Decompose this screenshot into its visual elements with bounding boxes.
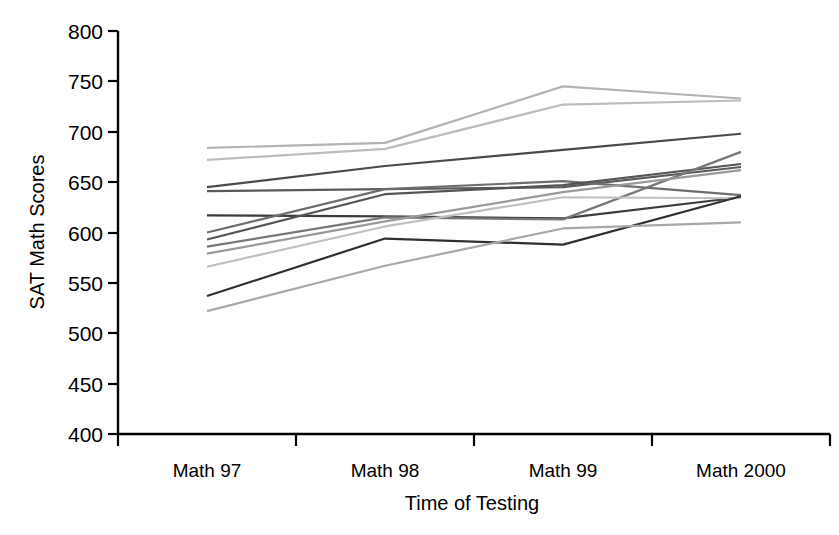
x-tick-label-math-97: Math 97 xyxy=(173,460,242,481)
y-tick-label-400: 400 xyxy=(68,423,103,446)
x-tick-label-math-98: Math 98 xyxy=(351,460,420,481)
x-axis-title: Time of Testing xyxy=(405,492,540,514)
x-tick-label-math-99: Math 99 xyxy=(529,460,598,481)
y-axis-tick-labels: 800 750 700 650 600 550 500 450 400 xyxy=(68,20,103,446)
y-tick-label-650: 650 xyxy=(68,171,103,194)
y-tick-label-750: 750 xyxy=(68,70,103,93)
y-tick-label-800: 800 xyxy=(68,20,103,43)
y-axis-title: SAT Math Scores xyxy=(26,155,48,310)
y-tick-label-700: 700 xyxy=(68,121,103,144)
y-tick-label-600: 600 xyxy=(68,222,103,245)
line-chart-svg: 800 750 700 650 600 550 500 450 400 Math… xyxy=(0,0,839,535)
y-tick-label-550: 550 xyxy=(68,272,103,295)
chart-background xyxy=(0,0,839,535)
chart-figure: 800 750 700 650 600 550 500 450 400 Math… xyxy=(0,0,839,535)
x-tick-label-math-2000: Math 2000 xyxy=(696,460,786,481)
y-tick-label-450: 450 xyxy=(68,373,103,396)
y-tick-label-500: 500 xyxy=(68,322,103,345)
